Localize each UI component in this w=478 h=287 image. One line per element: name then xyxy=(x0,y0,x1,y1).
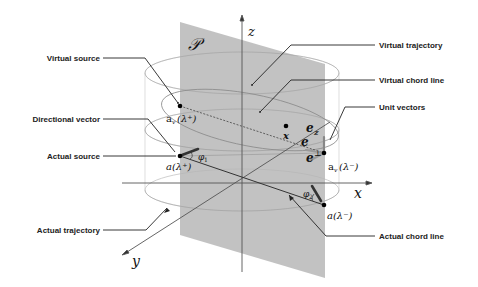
svg-text:z: z xyxy=(313,127,319,137)
virtual-source-point xyxy=(178,104,183,109)
callout-directional-vector: Directional vector xyxy=(32,115,100,124)
e-label: e xyxy=(301,135,309,149)
a-minus-label: a(λ⁻) xyxy=(327,210,352,221)
x-axis-arrow-icon xyxy=(366,181,372,185)
actual-source-point xyxy=(178,154,183,159)
z-axis-arrow-icon xyxy=(240,15,244,21)
callout-actual-chord-line: Actual chord line xyxy=(379,232,444,241)
y-axis-arrow-icon xyxy=(122,250,129,255)
callout-virtual-chord-line: Virtual chord line xyxy=(379,76,445,85)
callout-unit-vectors: Unit vectors xyxy=(379,103,426,112)
av-minus-label: a v (λ⁻) xyxy=(328,161,359,173)
geometry-diagram: Virtual source Directional vector Actual… xyxy=(0,0,478,287)
x-axis-label: x xyxy=(354,185,362,201)
svg-text:(λ⁻): (λ⁻) xyxy=(339,161,359,172)
actual-end-point xyxy=(322,203,327,208)
svg-text:2: 2 xyxy=(309,193,313,200)
svg-text:⊥: ⊥ xyxy=(314,149,322,158)
callout-actual-trajectory: Actual trajectory xyxy=(37,226,101,235)
plane-p xyxy=(180,22,325,278)
a-plus-label: a(λ⁺) xyxy=(166,161,191,172)
svg-text:e: e xyxy=(306,151,314,165)
callout-actual-source: Actual source xyxy=(47,152,100,161)
svg-text:1: 1 xyxy=(204,156,208,163)
virtual-end-point xyxy=(322,151,327,156)
svg-text:(λ⁺): (λ⁺) xyxy=(177,113,197,124)
x-point-label: x xyxy=(282,130,290,141)
callout-virtual-trajectory: Virtual trajectory xyxy=(379,41,443,50)
svg-text:e: e xyxy=(306,121,314,135)
x-point xyxy=(284,124,289,129)
callout-virtual-source: Virtual source xyxy=(47,54,101,63)
av-plus-label: a v (λ⁺) xyxy=(166,113,197,125)
z-axis-label: z xyxy=(247,24,255,39)
svg-text:v: v xyxy=(334,166,338,173)
y-axis-label: y xyxy=(131,253,141,269)
